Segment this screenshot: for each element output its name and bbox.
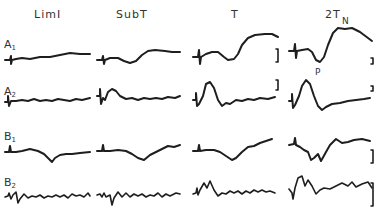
trace-a1-t <box>193 34 278 64</box>
scale-bar <box>371 150 373 163</box>
scale-bar <box>276 80 278 90</box>
scale-bar <box>371 58 373 64</box>
evoked-potential-figure: LimI SubT T 2T A1 A2 B1 B2 P N <box>0 0 377 217</box>
trace-a2-t <box>193 82 275 106</box>
trace-a1-subt <box>97 50 180 64</box>
trace-a1-2t <box>289 28 372 62</box>
trace-b1-t <box>193 139 272 160</box>
scale-bar <box>371 86 373 91</box>
scale-bar <box>276 49 278 62</box>
traces-plot <box>0 0 377 217</box>
trace-b2-t <box>193 181 275 196</box>
trace-a2-limi <box>5 96 90 106</box>
trace-b2-limi <box>5 192 90 203</box>
trace-b1-subt <box>97 145 180 160</box>
trace-b2-subt <box>97 192 180 205</box>
trace-b1-2t <box>289 138 370 161</box>
trace-b2-2t <box>289 176 372 199</box>
trace-a2-2t <box>289 80 370 110</box>
trace-a1-limi <box>5 53 90 64</box>
trace-a2-subt <box>97 89 180 104</box>
trace-b1-limi <box>5 146 90 162</box>
